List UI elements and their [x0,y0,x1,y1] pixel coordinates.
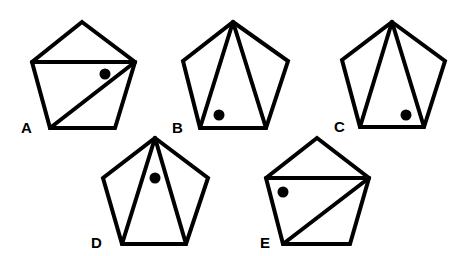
option-label: A [21,119,32,136]
dot-marker [150,173,161,184]
diagonal [360,22,392,127]
dot-marker [401,110,412,121]
pentagon-options-figure: A B C D E [0,0,464,256]
dot-marker [278,187,289,198]
option-c[interactable]: C [334,22,445,135]
option-b[interactable]: B [172,22,288,136]
diagonal [233,22,266,128]
pentagon-outline [183,22,288,128]
diagonal [283,178,369,244]
diagonal [155,138,186,244]
option-label: E [260,234,270,251]
option-d[interactable]: D [91,138,208,251]
option-e[interactable]: E [260,138,369,251]
dot-marker [100,69,111,80]
dot-marker [214,110,225,121]
option-a[interactable]: A [21,22,135,136]
option-label: D [91,234,102,251]
diagonal [50,62,135,128]
pentagon-outline [103,138,208,244]
diagonal [122,138,155,244]
pentagon-outline [342,22,445,127]
option-label: C [334,118,345,135]
option-label: B [172,119,183,136]
